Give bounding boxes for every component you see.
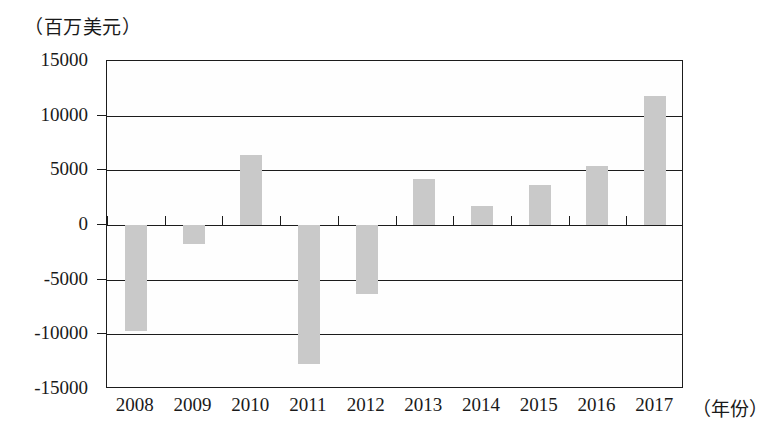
gridline-10000: [107, 116, 682, 117]
x-tick-label-2011: 2011: [289, 394, 326, 416]
y-tick-mark: [97, 333, 106, 334]
y-axis-unit-label: （百万美元）: [24, 12, 141, 39]
y-tick-label: -15000: [0, 377, 88, 399]
gridline--10000: [107, 334, 682, 335]
x-tick-label-2008: 2008: [116, 394, 154, 416]
y-tick-label: -10000: [0, 322, 88, 344]
x-tick-label-2014: 2014: [462, 394, 500, 416]
bar-2008: [125, 225, 147, 331]
x-tick-label-2013: 2013: [404, 394, 442, 416]
category-tick: [165, 216, 166, 225]
category-tick: [280, 216, 281, 225]
y-tick-label: 15000: [0, 49, 88, 71]
category-tick: [107, 216, 108, 225]
y-tick-label: 10000: [0, 104, 88, 126]
bar-2009: [183, 225, 205, 244]
bar-2017: [644, 96, 666, 225]
y-tick-mark: [97, 279, 106, 280]
category-tick: [569, 216, 570, 225]
x-tick-label-2017: 2017: [635, 394, 673, 416]
x-tick-label-2010: 2010: [231, 394, 269, 416]
y-tick-label: 0: [0, 213, 88, 235]
y-tick-mark: [97, 115, 106, 116]
bar-2013: [413, 179, 435, 225]
plot-area: [106, 60, 683, 388]
category-tick: [453, 216, 454, 225]
bar-2012: [356, 225, 378, 294]
x-tick-label-2015: 2015: [520, 394, 558, 416]
category-tick: [511, 216, 512, 225]
bar-2016: [586, 166, 608, 225]
category-tick: [396, 216, 397, 225]
y-tick-mark: [97, 224, 106, 225]
x-tick-label-2012: 2012: [347, 394, 385, 416]
category-tick: [338, 216, 339, 225]
y-tick-label: -5000: [0, 268, 88, 290]
bar-chart: （百万美元） 150001000050000-5000-10000-15000 …: [0, 0, 774, 444]
bar-2011: [298, 225, 320, 364]
bar-2010: [240, 155, 262, 225]
gridline--5000: [107, 280, 682, 281]
category-tick: [626, 216, 627, 225]
y-tick-mark: [97, 169, 106, 170]
category-tick: [222, 216, 223, 225]
bar-2014: [471, 206, 493, 225]
y-tick-label: 5000: [0, 158, 88, 180]
bar-2015: [529, 185, 551, 225]
x-tick-label-2009: 2009: [174, 394, 212, 416]
x-axis-unit-label: （年份）: [692, 394, 768, 421]
x-tick-label-2016: 2016: [577, 394, 615, 416]
